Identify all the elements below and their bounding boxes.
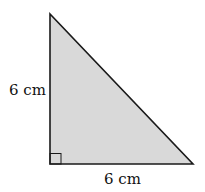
left-side-label: 6 cm [9,81,46,99]
right-triangle [50,14,193,164]
bottom-side-label: 6 cm [104,170,141,188]
triangle-diagram: 6 cm 6 cm [0,0,205,192]
